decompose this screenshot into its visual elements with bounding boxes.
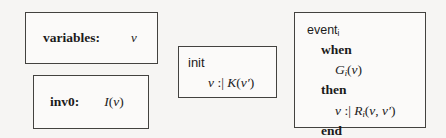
invariant-box: inv0: I(v)	[33, 75, 149, 129]
init-predicate-name: K	[227, 75, 236, 90]
when-keyword: when	[321, 42, 352, 57]
init-body-line: v :| K(v′)	[188, 73, 254, 93]
variables-row: variables: v	[26, 30, 157, 46]
init-lines: init v :| K(v′)	[179, 54, 254, 92]
event-then-line: then	[307, 80, 396, 100]
guard-close-paren: )	[358, 62, 363, 77]
variables-value: v	[131, 30, 137, 46]
figure-canvas: variables: v inv0: I(v) init v :| K(v′) …	[0, 0, 446, 138]
event-guard-line: Gi(v)	[307, 60, 396, 80]
event-end-line: end	[307, 121, 396, 138]
event-box: eventi when Gi(v) then v :| Ri(v, v′) en…	[294, 12, 426, 128]
event-when-line: when	[307, 40, 396, 60]
event-action-line: v :| Ri(v, v′)	[307, 101, 396, 121]
event-subscript: i	[338, 29, 340, 38]
init-box: init v :| K(v′)	[178, 46, 277, 98]
then-keyword: then	[321, 82, 347, 97]
invariant-close-paren: )	[119, 94, 124, 109]
guard-name: G	[335, 62, 345, 77]
action-close-paren: )	[391, 103, 396, 118]
variables-keyword: variables:	[43, 30, 100, 46]
end-keyword: end	[321, 123, 342, 138]
event-lines: eventi when Gi(v) then v :| Ri(v, v′) en…	[295, 21, 396, 138]
invariant-keyword: inv0:	[50, 94, 79, 110]
init-close-paren: )	[250, 75, 255, 90]
event-header-line: eventi	[307, 21, 396, 40]
invariant-row: inv0: I(v)	[34, 94, 148, 110]
variables-box: variables: v	[25, 12, 158, 64]
init-keyword: init	[188, 55, 205, 70]
event-keyword: event	[307, 23, 338, 37]
init-keyword-line: init	[188, 54, 254, 73]
invariant-expression: I(v)	[104, 94, 124, 110]
